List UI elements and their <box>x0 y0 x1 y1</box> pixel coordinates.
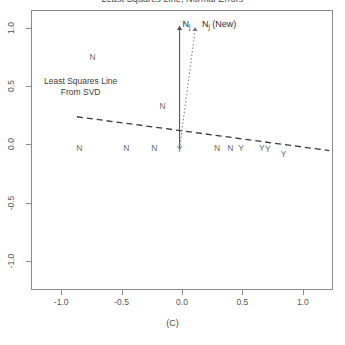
data-point-glyph: N <box>227 143 233 152</box>
data-point-glyph: Y <box>177 145 183 154</box>
nj-new-arrow-label: Nj (New) <box>202 19 236 29</box>
least-squares-annotation-line1: Least Squares Line <box>44 76 117 87</box>
y-tick-label: 1.0 <box>6 16 16 40</box>
y-tick-mark <box>26 28 31 29</box>
data-point-glyph: Y <box>281 149 287 158</box>
data-point-glyph: N <box>123 143 129 152</box>
chart-canvas: Least Squares Line, Normal Errors 1.00.5… <box>0 0 345 345</box>
x-tick-mark <box>122 290 123 295</box>
x-tick-label: 0.5 <box>227 297 257 307</box>
least-squares-annotation: Least Squares Line From SVD <box>44 76 117 97</box>
x-tick-mark <box>182 290 183 295</box>
x-axis-label: (C) <box>0 318 345 328</box>
y-tick-label: -1.0 <box>6 249 16 273</box>
data-point-glyph: Y <box>265 145 271 154</box>
nj-new-arrow-label-suffix: (New) <box>210 19 237 29</box>
x-tick-label: -0.5 <box>107 297 137 307</box>
y-tick-label: -0.5 <box>6 191 16 215</box>
nj-new-arrow-label-subscript: j <box>208 23 209 30</box>
x-tick-mark <box>303 290 304 295</box>
data-point-glyph: Y <box>259 143 265 152</box>
chart-title: Least Squares Line, Normal Errors <box>0 0 345 4</box>
nj-arrow-label-subscript: j <box>189 23 190 30</box>
data-point-glyph: Y <box>238 143 244 152</box>
y-tick-label: 0.0 <box>6 132 16 156</box>
least-squares-annotation-line2: From SVD <box>44 87 117 98</box>
x-tick-label: -1.0 <box>46 297 76 307</box>
y-tick-mark <box>26 144 31 145</box>
y-tick-label: 0.5 <box>6 74 16 98</box>
y-tick-mark <box>26 203 31 204</box>
data-point-glyph: N <box>151 143 157 152</box>
x-tick-mark <box>242 290 243 295</box>
data-point-glyph: N <box>90 52 96 61</box>
nj-arrow-label: Nj <box>183 19 191 29</box>
data-point-glyph: N <box>214 143 220 152</box>
x-tick-label: 0.0 <box>167 297 197 307</box>
y-tick-mark <box>26 86 31 87</box>
data-point-glyph: N <box>76 143 82 152</box>
data-point-glyph: N <box>160 101 166 110</box>
x-tick-label: 1.0 <box>288 297 318 307</box>
y-tick-mark <box>26 261 31 262</box>
x-tick-mark <box>61 290 62 295</box>
